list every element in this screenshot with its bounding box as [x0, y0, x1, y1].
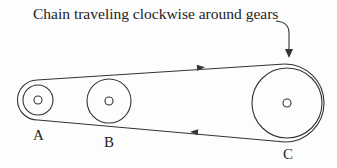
gear-a	[23, 85, 53, 115]
chain	[17, 64, 324, 142]
gear-label-a: A	[33, 127, 44, 144]
gear-label-c: C	[283, 146, 293, 163]
gear-label-b: B	[104, 134, 114, 151]
gear-c	[252, 68, 322, 138]
gear-b	[87, 79, 131, 123]
pointer-arrow-icon	[276, 21, 293, 58]
diagram-drawing	[0, 0, 337, 168]
gear-chain-diagram: Chain traveling clockwise around gears	[0, 0, 337, 168]
